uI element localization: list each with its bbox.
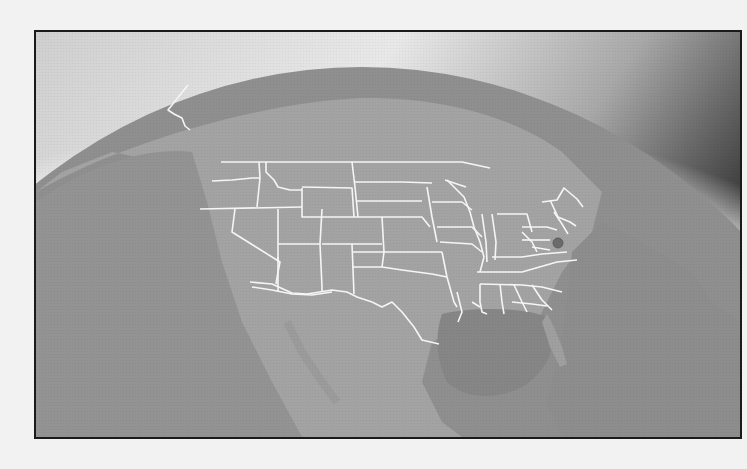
map-frame [34,30,742,439]
globe-map [36,32,740,437]
location-marker [553,238,563,248]
texture-overlay [36,32,740,437]
